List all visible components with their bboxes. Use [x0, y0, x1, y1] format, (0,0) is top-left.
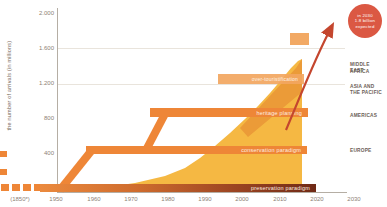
- tourism-paradigms-chart: the number of arrivals (in millions) 2.0…: [0, 0, 387, 207]
- legend-europe: EUROPE: [350, 148, 384, 154]
- forecast-arrow-layer: [0, 0, 387, 207]
- forecast-arrow: [286, 26, 332, 130]
- forecast-badge: in 2030 1.8 billion expected: [348, 4, 382, 38]
- legend-africa: AFRICA: [350, 69, 384, 75]
- legend-asia-pacific: ASIA AND THE PACIFIC: [350, 84, 384, 95]
- legend-americas: AMERICAS: [350, 113, 384, 119]
- forecast-badge-line3: expected: [355, 24, 374, 29]
